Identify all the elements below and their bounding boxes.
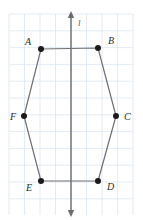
axis-layer: l bbox=[68, 11, 81, 217]
vertex-point-d bbox=[95, 178, 101, 184]
vertex-label-d: D bbox=[106, 181, 115, 192]
vertex-label-a: A bbox=[24, 36, 32, 47]
vertex-point-b bbox=[95, 45, 101, 51]
vertex-layer: ABCDEF bbox=[9, 35, 131, 193]
vertex-point-f bbox=[21, 113, 27, 119]
axis-label-l: l bbox=[78, 18, 81, 28]
vertex-label-e: E bbox=[25, 182, 32, 193]
axis-arrow-up-icon bbox=[68, 11, 74, 18]
figure-canvas: l ABCDEF bbox=[0, 0, 143, 220]
geometry-figure: l ABCDEF bbox=[0, 0, 143, 220]
vertex-label-b: B bbox=[108, 35, 114, 46]
vertex-point-a bbox=[38, 46, 44, 52]
vertex-point-e bbox=[38, 178, 44, 184]
axis-arrow-down-icon bbox=[68, 210, 74, 217]
vertex-label-f: F bbox=[9, 111, 17, 122]
vertex-point-c bbox=[113, 113, 119, 119]
vertex-label-c: C bbox=[124, 111, 131, 122]
